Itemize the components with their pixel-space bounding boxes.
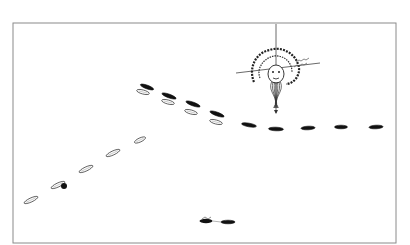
filled-fleet-ship-3 [185,100,200,109]
filled-fleet-ship-8 [335,125,348,129]
tow-line [213,221,222,222]
damaged-ship-blob [61,183,67,189]
filled-fleet [140,83,383,224]
flagship-small [200,219,213,223]
filled-fleet-ship-9 [369,125,383,129]
compass-rose [236,24,320,114]
filled-fleet-ship-4 [209,110,224,119]
fleets-layer [23,83,383,224]
filled-fleet-ship-5 [241,122,256,128]
markers-layer [61,183,221,223]
diagram-frame [13,23,396,243]
filled-fleet-ship-10 [221,220,235,224]
wind-head-icon [252,49,309,114]
battle-diagram [0,0,410,245]
filled-fleet-ship-6 [268,127,283,131]
flagship-rigging [202,217,211,219]
filled-fleet-ship-7 [301,126,315,130]
